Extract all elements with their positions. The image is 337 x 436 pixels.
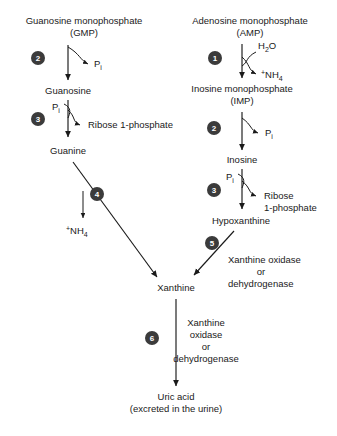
label-guanine: Guanine	[50, 145, 86, 156]
label-enzyme-step6-line4: dehydrogenase	[173, 353, 239, 364]
label-imp-line2: (IMP)	[230, 95, 253, 106]
label-enzyme-step5-line2: or	[257, 266, 265, 277]
branch-arrow-ribose1p-left	[68, 110, 80, 125]
pathway-svg: Guanosine monophosphate (GMP) Pi 2 Guano…	[0, 0, 337, 436]
step-number-2-left: 2	[36, 54, 41, 63]
label-phosphate-guanosine: Pi	[52, 101, 60, 114]
label-enzyme-step6-line2: oxidase	[190, 329, 223, 340]
step-circle-3-left: 3	[31, 112, 45, 126]
label-uric-acid-line2: (excreted in the urine)	[130, 403, 222, 414]
step-number-2-right: 2	[212, 124, 217, 133]
branch-arrow-ammonium-amp	[242, 57, 256, 74]
step-circle-2-left: 2	[31, 51, 45, 65]
label-amp-line2: (AMP)	[237, 27, 264, 38]
label-amp-line1: Adenosine monophosphate	[192, 15, 308, 26]
label-enzyme-step6-line1: Xanthine	[187, 317, 225, 328]
label-ammonium-amp: +NH4	[261, 69, 283, 82]
step-number-3-right: 3	[212, 186, 217, 195]
label-ammonium-guanine: +NH4	[66, 225, 88, 238]
branch-line-inosine-phosphate-in	[238, 174, 244, 188]
label-hypoxanthine: Hypoxanthine	[212, 215, 270, 226]
step-number-6: 6	[150, 334, 155, 343]
branch-arrow-imp-phosphate	[242, 118, 258, 133]
step-circle-6: 6	[145, 331, 159, 345]
label-gmp-line2: (GMP)	[70, 27, 98, 38]
label-ribose-1-phosphate-right-line2: 1-phosphate	[264, 202, 317, 213]
step-circle-4: 4	[90, 187, 104, 201]
branch-arrow-gmp-phosphate	[68, 47, 88, 64]
branch-arrow-ribose1p-right	[242, 181, 256, 196]
step-circle-3-right: 3	[207, 183, 221, 197]
label-imp-line1: Inosine monophosphate	[191, 83, 292, 94]
step-number-5: 5	[210, 239, 215, 248]
label-xanthine: Xanthine	[157, 282, 195, 293]
label-gmp-line1: Guanosine monophosphate	[26, 15, 143, 26]
label-ribose-1-phosphate-right-line1: Ribose	[264, 190, 294, 201]
label-water: H2O	[258, 40, 276, 53]
step-number-3-left: 3	[36, 115, 41, 124]
label-uric-acid-line1: Uric acid	[158, 391, 195, 402]
label-phosphate-imp: Pi	[265, 127, 273, 140]
step-circle-5: 5	[205, 236, 219, 250]
label-guanosine: Guanosine	[45, 85, 91, 96]
step-circle-1: 1	[208, 51, 222, 65]
label-enzyme-step5-line1: Xanthine oxidase	[228, 254, 301, 265]
label-enzyme-step5-line3: dehydrogenase	[228, 278, 294, 289]
step-number-4: 4	[95, 190, 100, 199]
step-number-1: 1	[213, 54, 218, 63]
label-phosphate-inosine: Pi	[226, 171, 234, 184]
label-ribose-1-phosphate-left: Ribose 1-phosphate	[88, 119, 173, 130]
purine-catabolism-diagram: Guanosine monophosphate (GMP) Pi 2 Guano…	[0, 0, 337, 436]
arrow-guanine-to-xanthine	[73, 162, 157, 277]
label-phosphate-gmp: Pi	[94, 58, 102, 71]
label-enzyme-step6-line3: or	[202, 341, 210, 352]
label-inosine: Inosine	[227, 154, 258, 165]
step-circle-2-right: 2	[207, 121, 221, 135]
